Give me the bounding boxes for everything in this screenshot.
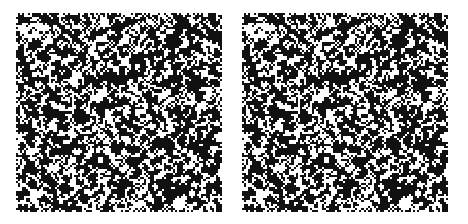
stereogram-right-panel: [242, 13, 448, 212]
random-dot-pattern-left: [16, 13, 222, 212]
random-dot-pattern-right: [242, 13, 448, 212]
stereogram-left-panel: [16, 13, 222, 212]
